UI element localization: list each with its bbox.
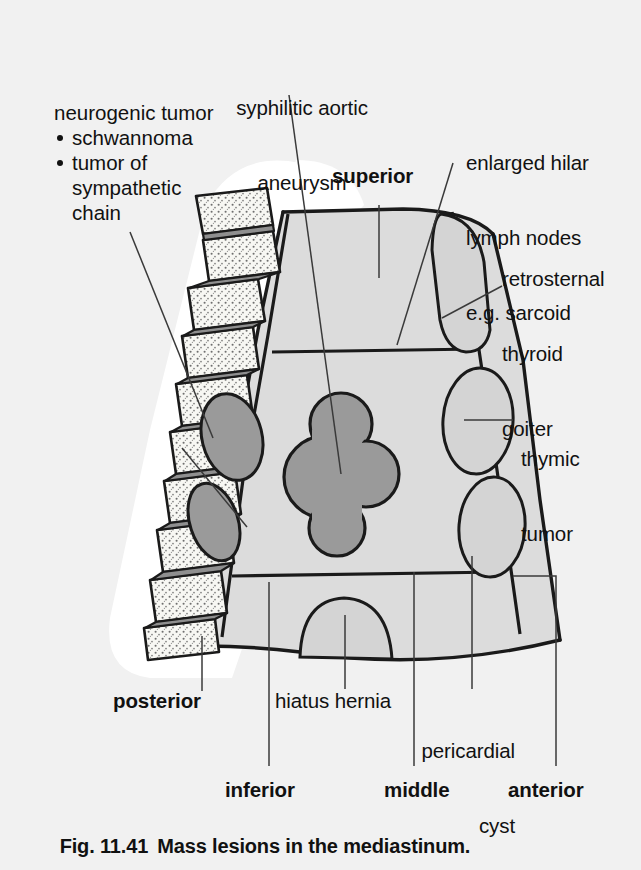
label-compartment-posterior: posterior [113, 688, 201, 713]
label-hilar-line-1: enlarged hilar [466, 150, 636, 175]
figure-title: Mass lesions in the mediastinum. [157, 835, 470, 857]
figure-caption: Fig. 11.41Mass lesions in the mediastinu… [38, 812, 470, 870]
figure-number: Fig. 11.41 [60, 835, 149, 857]
label-compartment-superior: superior [332, 163, 413, 188]
label-syphilitic-aortic-aneurysm: syphilitic aortic aneurysm [222, 45, 382, 245]
label-pericardial-line-1: pericardial [403, 738, 515, 763]
label-thyroid-line-2: thyroid [502, 341, 641, 366]
label-thymic-line-2: tumor [521, 521, 631, 546]
label-hiatus-hernia: hiatus hernia [275, 688, 391, 713]
label-thymic-line-1: thymic [521, 446, 631, 471]
label-aneurysm-line-1: syphilitic aortic [222, 95, 382, 120]
label-compartment-inferior: inferior [225, 777, 295, 802]
label-thyroid-line-1: retrosternal [502, 266, 641, 291]
label-compartment-anterior: anterior [508, 777, 584, 802]
label-thymic-tumor: thymic tumor [521, 396, 631, 596]
figure-panel: neurogenic tumor schwannoma tumor of sym… [0, 0, 641, 870]
label-compartment-middle: middle [384, 777, 449, 802]
